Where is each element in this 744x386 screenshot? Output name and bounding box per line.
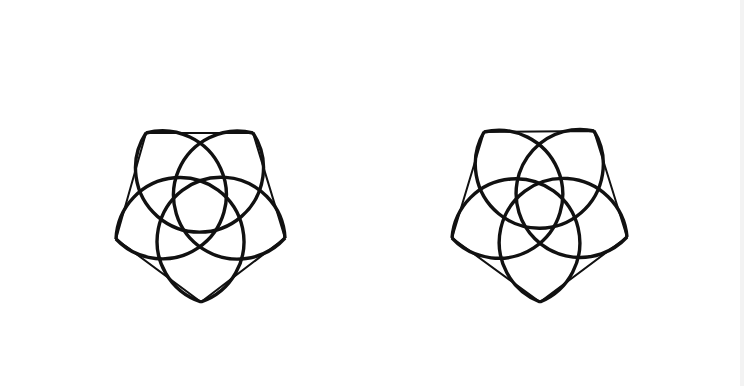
petal-arc: [174, 131, 285, 259]
petal-arc: [116, 131, 226, 259]
left-flower-figure: [116, 131, 285, 302]
right-flower-figure: [452, 129, 627, 302]
petal-arc: [452, 130, 563, 258]
diagram-canvas: [0, 0, 744, 386]
pentagon: [116, 133, 285, 302]
petal-arc: [516, 129, 627, 257]
pentagon: [452, 131, 627, 302]
